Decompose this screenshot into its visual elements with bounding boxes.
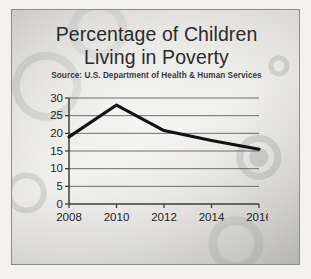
y-tick-label: 25 (50, 109, 63, 121)
y-axis-ticks: 051015202530 (50, 93, 69, 210)
x-tick-label: 2010 (104, 211, 130, 223)
line-chart-svg: 051015202530 20082010201220142016 (46, 93, 268, 229)
chart-source-note: Source: U.S. Department of Health & Huma… (12, 71, 300, 80)
x-tick-label: 2008 (56, 211, 82, 223)
y-tick-label: 30 (50, 93, 63, 104)
chart-card: Percentage of Children Living in Poverty… (11, 9, 300, 265)
y-tick-label: 20 (50, 127, 63, 139)
x-tick-label: 2012 (151, 211, 177, 223)
y-tick-label: 15 (50, 145, 63, 157)
chart-plot-area: 051015202530 20082010201220142016 (46, 93, 268, 229)
gridlines (69, 98, 259, 186)
y-tick-label: 0 (57, 198, 63, 210)
y-tick-label: 10 (50, 162, 63, 174)
chart-title: Percentage of Children Living in Poverty (12, 23, 300, 69)
x-axis-ticks: 20082010201220142016 (56, 204, 268, 223)
slide-canvas: Percentage of Children Living in Poverty… (0, 0, 311, 279)
chart-title-line-2: Living in Poverty (12, 46, 300, 69)
chart-title-line-1: Percentage of Children (12, 23, 300, 46)
x-tick-label: 2016 (246, 211, 268, 223)
x-tick-label: 2014 (199, 211, 225, 223)
y-tick-label: 5 (57, 180, 63, 192)
poverty-rate-series-line (69, 105, 259, 149)
